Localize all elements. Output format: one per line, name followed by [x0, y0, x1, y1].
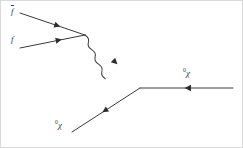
f-glyph: f	[11, 35, 14, 44]
chi-out-leg-arrowhead	[185, 85, 191, 91]
chi-out-glyph: χ	[186, 69, 190, 78]
boson-propagator-arrowhead	[111, 58, 120, 67]
boson-propagator	[73, 35, 118, 79]
diagram-canvas: f f 0χ 0χ	[0, 0, 243, 148]
feynman-diagram	[0, 0, 243, 148]
label-fbar: f	[11, 5, 14, 16]
chi-in-leg-arrowhead	[101, 106, 109, 114]
label-chi-in: 0χ	[55, 119, 62, 130]
f-leg	[20, 35, 85, 48]
label-f: f	[11, 35, 14, 44]
chi-in-glyph: χ	[58, 121, 62, 130]
fbar-leg-arrowhead	[54, 22, 62, 30]
fbar-glyph: f	[11, 7, 14, 16]
fbar-leg	[20, 13, 85, 35]
canvas-border	[1, 1, 243, 148]
label-chi-out: 0χ	[183, 67, 190, 78]
